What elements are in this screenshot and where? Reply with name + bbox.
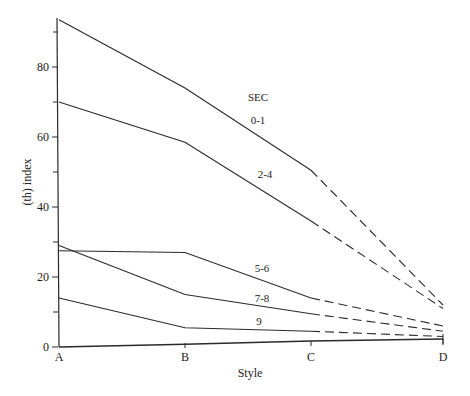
series-line-5-6 — [59, 251, 311, 298]
x-axis-title: Style — [238, 366, 263, 380]
x-tick-label: A — [55, 350, 64, 364]
x-tick-label: C — [307, 350, 315, 364]
series-dashed-7-8 — [311, 314, 443, 332]
series-dashed-5-6 — [311, 298, 443, 326]
y-tick-label: 0 — [43, 340, 49, 354]
series-line-0-1 — [59, 20, 311, 171]
series-dashed-2-4 — [311, 221, 443, 309]
series-label-2-4: 2-4 — [258, 168, 273, 180]
series-label-0-1: 0-1 — [251, 114, 266, 126]
y-tick-label: 80 — [37, 60, 49, 74]
series-line-baseline — [59, 339, 443, 347]
x-tick-label: B — [181, 350, 189, 364]
series-label-5-6: 5-6 — [255, 262, 270, 274]
legend-title: SEC — [248, 91, 268, 103]
y-tick-label: 20 — [37, 270, 49, 284]
series-label-9: 9 — [256, 315, 262, 327]
line-chart: 020406080 ABCD (th) index Style SEC 0-1 … — [0, 0, 470, 396]
series-label-7-8: 7-8 — [255, 292, 270, 304]
y-axis-title: (th) index — [20, 159, 34, 206]
series-line-7-8 — [59, 246, 311, 314]
y-axis: 020406080 — [37, 18, 59, 354]
series-dashed-9 — [311, 331, 443, 336]
series-line-2-4 — [59, 102, 311, 221]
series-dashed-0-1 — [311, 170, 443, 305]
y-tick-label: 60 — [37, 130, 49, 144]
series-lines — [59, 20, 443, 347]
x-tick-label: D — [439, 350, 448, 364]
series-line-9 — [59, 298, 311, 331]
y-tick-label: 40 — [37, 200, 49, 214]
